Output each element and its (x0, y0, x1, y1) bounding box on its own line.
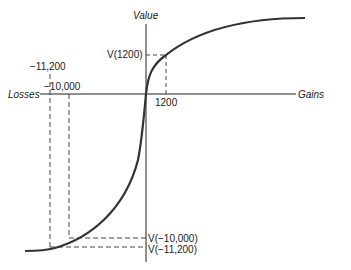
label-v-minus11200: V(−11,200) (148, 244, 197, 255)
label-v1200: V(1200) (107, 49, 143, 60)
gains-label: Gains (298, 89, 324, 100)
label-minus11200: −11,200 (30, 61, 66, 72)
value-curve (25, 18, 305, 251)
label-minus10000: −10,000 (44, 81, 81, 92)
losses-label: Losses (8, 89, 40, 100)
label-v-minus10000: V(−10,000) (148, 233, 198, 244)
y-axis-label: Value (133, 10, 159, 21)
label-1200: 1200 (155, 97, 178, 108)
value-function-diagram: Value Gains Losses V(1200) 1200 −11,200 … (0, 0, 351, 270)
